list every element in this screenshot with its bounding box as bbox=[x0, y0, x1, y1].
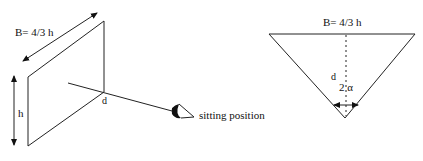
top-distance-label: d bbox=[331, 71, 336, 82]
viewer-label: sitting position bbox=[199, 109, 265, 121]
angle-label: 2 α bbox=[339, 81, 353, 93]
screen-outline bbox=[28, 21, 104, 146]
eye-icon bbox=[172, 104, 194, 118]
distance-label: d bbox=[102, 95, 107, 106]
top-width-label: B= 4/3 h bbox=[323, 16, 362, 28]
screen-perspective-view: B= 4/3 h h d sitting position bbox=[14, 13, 265, 146]
top-view-triangle: B= 4/3 h d 2 α bbox=[269, 16, 415, 118]
width-label: B= 4/3 h bbox=[15, 26, 54, 38]
viewing-geometry-diagram: B= 4/3 h h d sitting position B= 4/3 h d… bbox=[0, 0, 423, 161]
height-label: h bbox=[18, 107, 24, 119]
